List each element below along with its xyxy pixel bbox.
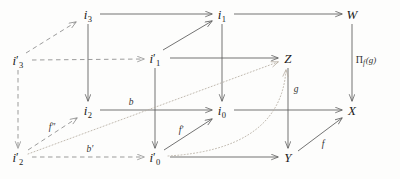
edge-i0prime-to-Z-curved-dotted [168,70,286,156]
node-i1-prime-mark: ′ [152,51,155,65]
node-Y-base: Y [284,150,291,165]
edges-dashed [18,22,144,157]
node-i0-prime: i′0 [149,151,160,164]
node-Z-base: Z [284,51,291,66]
node-i2-prime-mark: ′ [15,150,18,164]
node-i2-prime: i′2 [12,151,23,164]
edge-Y-to-X [298,118,342,151]
edge-label-f-prime: f′ [179,126,184,136]
edge-i2prime-to-Z-dotted [28,62,278,154]
edges-solid-diagonal [163,21,342,151]
edge-label-pi-f-g: Πf (g) [356,55,377,65]
edge-i0prime-to-i0 [164,119,212,150]
node-i1: i1 [218,8,226,21]
node-i1-prime: i′1 [149,52,160,65]
node-i3: i3 [84,8,92,21]
pi-argument: (g) [366,55,377,65]
node-i0-prime-sub: 0 [156,157,160,167]
edge-i1prime-to-i1 [163,21,212,50]
node-W-base: W [346,7,357,22]
node-i2-sub: 2 [88,110,92,120]
edge-label-f-double-prime: f″ [49,123,56,133]
node-Y: Y [284,151,291,164]
edge-i3prime-to-i3 [26,22,76,53]
node-i2-prime-sub: 2 [19,157,23,167]
node-i3-prime-mark: ′ [15,53,18,67]
diagram-edges-canvas [0,0,400,179]
node-i0-prime-mark: ′ [152,150,155,164]
edge-label-b-prime: b′ [87,145,94,155]
commutative-diagram: i3 i1 W i′3 i′1 Z i2 i0 X i′2 i′0 Y b b′… [0,0,400,179]
node-X: X [348,104,356,117]
node-i3-prime-sub: 3 [19,60,23,70]
node-Z: Z [284,52,291,65]
node-X-base: X [348,103,356,118]
edge-label-b: b [129,98,134,108]
edges-solid-horizontal [100,14,342,157]
node-i1-prime-sub: 1 [156,58,160,68]
node-W: W [346,8,357,21]
edge-label-g: g [294,85,299,95]
node-i0-sub: 0 [222,110,226,120]
node-i3-sub: 3 [88,14,92,24]
node-i0: i0 [218,104,226,117]
edges-solid-vertical [88,24,352,148]
node-i2: i2 [84,104,92,117]
node-i3-prime: i′3 [12,54,23,67]
edge-label-f: f [322,140,325,150]
edges-dotted [28,62,286,156]
node-i1-sub: 1 [222,14,226,24]
